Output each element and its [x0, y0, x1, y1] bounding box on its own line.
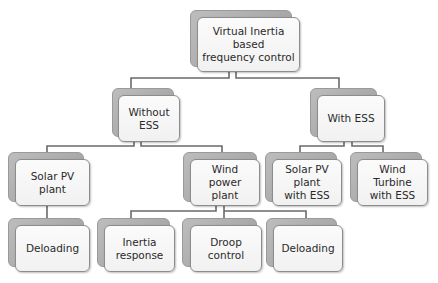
node-wind-turbine-with-ess-label-line2: with ESS	[370, 189, 416, 202]
node-without-ess-box: Without ESS	[118, 95, 180, 142]
node-wind-turbine-with-ess-label-line1: Wind Turbine	[361, 163, 424, 189]
node-root-label-line1: Virtual Inertia based	[201, 25, 296, 51]
node-root-box: Virtual Inertia based frequency control	[197, 17, 300, 72]
node-solar-pv-plant-box: Solar PV plant	[15, 159, 90, 206]
node-wind-power-plant-label-line2: plant	[212, 189, 239, 202]
node-wind-deloading-box: Deloading	[273, 225, 343, 272]
node-solar-deloading-label: Deloading	[26, 242, 79, 255]
node-droop-control-box: Droop control	[190, 225, 262, 272]
node-root-label-line2: frequency control	[202, 51, 294, 64]
node-wind-power-plant-box: Wind power plant	[190, 159, 260, 206]
node-solar-pv-plant-with-ess-box: Solar PV plant with ESS	[272, 159, 342, 206]
node-solar-pv-plant-with-ess-label-line1: Solar PV plant	[276, 163, 338, 189]
node-solar-pv-plant-with-ess-label-line2: with ESS	[284, 189, 330, 202]
node-droop-control-label: Droop control	[194, 236, 258, 262]
node-wind-power-plant-label-line1: Wind power	[194, 163, 256, 189]
node-with-ess-box: With ESS	[317, 95, 385, 142]
node-with-ess-label: With ESS	[327, 112, 374, 125]
node-wind-turbine-with-ess-box: Wind Turbine with ESS	[357, 159, 428, 206]
node-without-ess-label: Without ESS	[122, 106, 176, 132]
node-solar-deloading-box: Deloading	[15, 225, 90, 272]
node-wind-deloading-label: Deloading	[281, 242, 334, 255]
node-solar-pv-plant-label: Solar PV plant	[19, 170, 86, 196]
node-inertia-response-label-line2: response	[116, 249, 164, 262]
node-inertia-response-label-line1: Inertia	[123, 236, 157, 249]
node-inertia-response-box: Inertia response	[104, 225, 175, 272]
